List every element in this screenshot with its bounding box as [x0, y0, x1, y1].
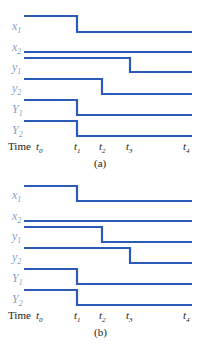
time-tick-label: t3	[126, 310, 133, 324]
time-axis-label: Time	[8, 310, 31, 321]
signal-label: x2	[12, 210, 21, 225]
waveform-x1	[24, 186, 192, 201]
signal-label: Y2	[12, 293, 23, 308]
waveform-Y1	[24, 100, 192, 115]
panel-caption: (b)	[94, 327, 107, 338]
signal-label: y2	[12, 82, 21, 97]
waveform-y2	[24, 248, 192, 263]
signal-label: Y2	[12, 124, 23, 139]
waveform-Y2	[24, 290, 192, 305]
time-tick-label: t0	[36, 141, 43, 155]
signal-label: x1	[12, 189, 21, 204]
waveform-Y1	[24, 269, 192, 284]
waveform-canvas	[0, 0, 201, 349]
waveform-y2	[24, 79, 192, 94]
time-tick-label: t4	[183, 310, 190, 324]
time-axis-label: Time	[8, 141, 31, 152]
signal-label: y2	[12, 251, 21, 266]
waveform-Y2	[24, 121, 192, 136]
waveform-y1	[24, 58, 192, 72]
signal-label: y1	[12, 61, 21, 76]
time-tick-label: t1	[74, 141, 81, 155]
time-tick-label: t2	[99, 141, 106, 155]
time-tick-label: t2	[99, 310, 106, 324]
signal-label: x2	[12, 41, 21, 56]
time-tick-label: t0	[36, 310, 43, 324]
panel-caption: (a)	[94, 158, 106, 169]
signal-label: Y1	[12, 103, 23, 118]
signal-label: x1	[12, 20, 21, 35]
signal-label: Y1	[12, 272, 23, 287]
time-tick-label: t1	[74, 310, 81, 324]
waveform-x1	[24, 16, 192, 32]
time-tick-label: t3	[126, 141, 133, 155]
waveform-y1	[24, 227, 192, 242]
signal-label: y1	[12, 230, 21, 245]
time-tick-label: t4	[183, 141, 190, 155]
